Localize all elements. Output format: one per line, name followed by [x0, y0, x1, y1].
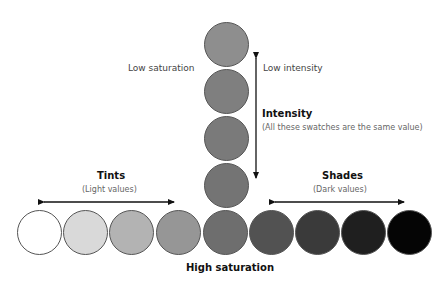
tints-subtitle: (Light values) [82, 185, 137, 194]
low-saturation-label: Low saturation [128, 63, 194, 73]
high-saturation-label: High saturation [186, 262, 274, 273]
intensity-subtitle: (All these swatches are the same value) [262, 123, 423, 132]
intensity-title: Intensity [262, 108, 312, 119]
tints-title: Tints [97, 170, 125, 181]
low-intensity-label: Low intensity [263, 63, 323, 73]
shades-subtitle: (Dark values) [313, 185, 367, 194]
shades-title: Shades [322, 170, 363, 181]
arrows-layer [0, 0, 448, 293]
